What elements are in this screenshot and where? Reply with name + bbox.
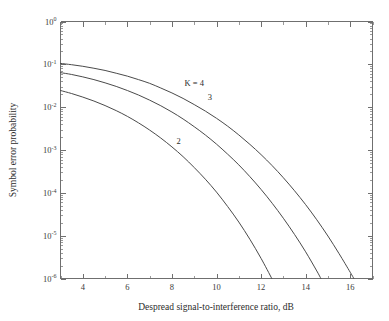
x-tick-label: 12 bbox=[257, 282, 266, 292]
y-tick-label-exponent: -2 bbox=[52, 102, 57, 108]
y-axis-title: Symbol error probability bbox=[8, 103, 18, 198]
y-tick-label-base: 10 bbox=[43, 231, 52, 241]
y-tick-label-exponent: -6 bbox=[52, 273, 57, 279]
y-tick-label-exponent: -3 bbox=[52, 145, 57, 151]
y-tick-label-base: 10 bbox=[43, 102, 52, 112]
plot-background bbox=[0, 0, 389, 321]
x-tick-label: 4 bbox=[81, 282, 86, 292]
y-tick-label-exponent: -1 bbox=[52, 59, 57, 65]
x-tick-label: 14 bbox=[301, 282, 310, 292]
y-tick-label-base: 10 bbox=[45, 17, 54, 27]
curve-label: K = 4 bbox=[184, 78, 204, 88]
curve-label: 2 bbox=[176, 136, 180, 146]
y-tick-label-base: 10 bbox=[43, 274, 52, 284]
y-tick-label-base: 10 bbox=[43, 59, 52, 69]
x-tick-label: 8 bbox=[170, 282, 174, 292]
x-axis-title: Despread signal-to-interference ratio, d… bbox=[138, 302, 294, 312]
chart-figure: 46810121416 10010-110-210-310-410-510-6 … bbox=[0, 0, 389, 321]
y-tick-label-base: 10 bbox=[43, 188, 52, 198]
y-tick-label-exponent: -4 bbox=[52, 188, 57, 194]
y-tick-label-base: 10 bbox=[43, 145, 52, 155]
semilog-plot: 46810121416 10010-110-210-310-410-510-6 … bbox=[0, 0, 389, 321]
x-tick-label: 6 bbox=[125, 282, 129, 292]
y-tick-label-exponent: -5 bbox=[52, 230, 57, 236]
x-tick-label: 10 bbox=[212, 282, 221, 292]
x-tick-label: 16 bbox=[346, 282, 355, 292]
curve-label: 3 bbox=[208, 92, 212, 102]
y-tick-label-exponent: 0 bbox=[54, 16, 57, 22]
